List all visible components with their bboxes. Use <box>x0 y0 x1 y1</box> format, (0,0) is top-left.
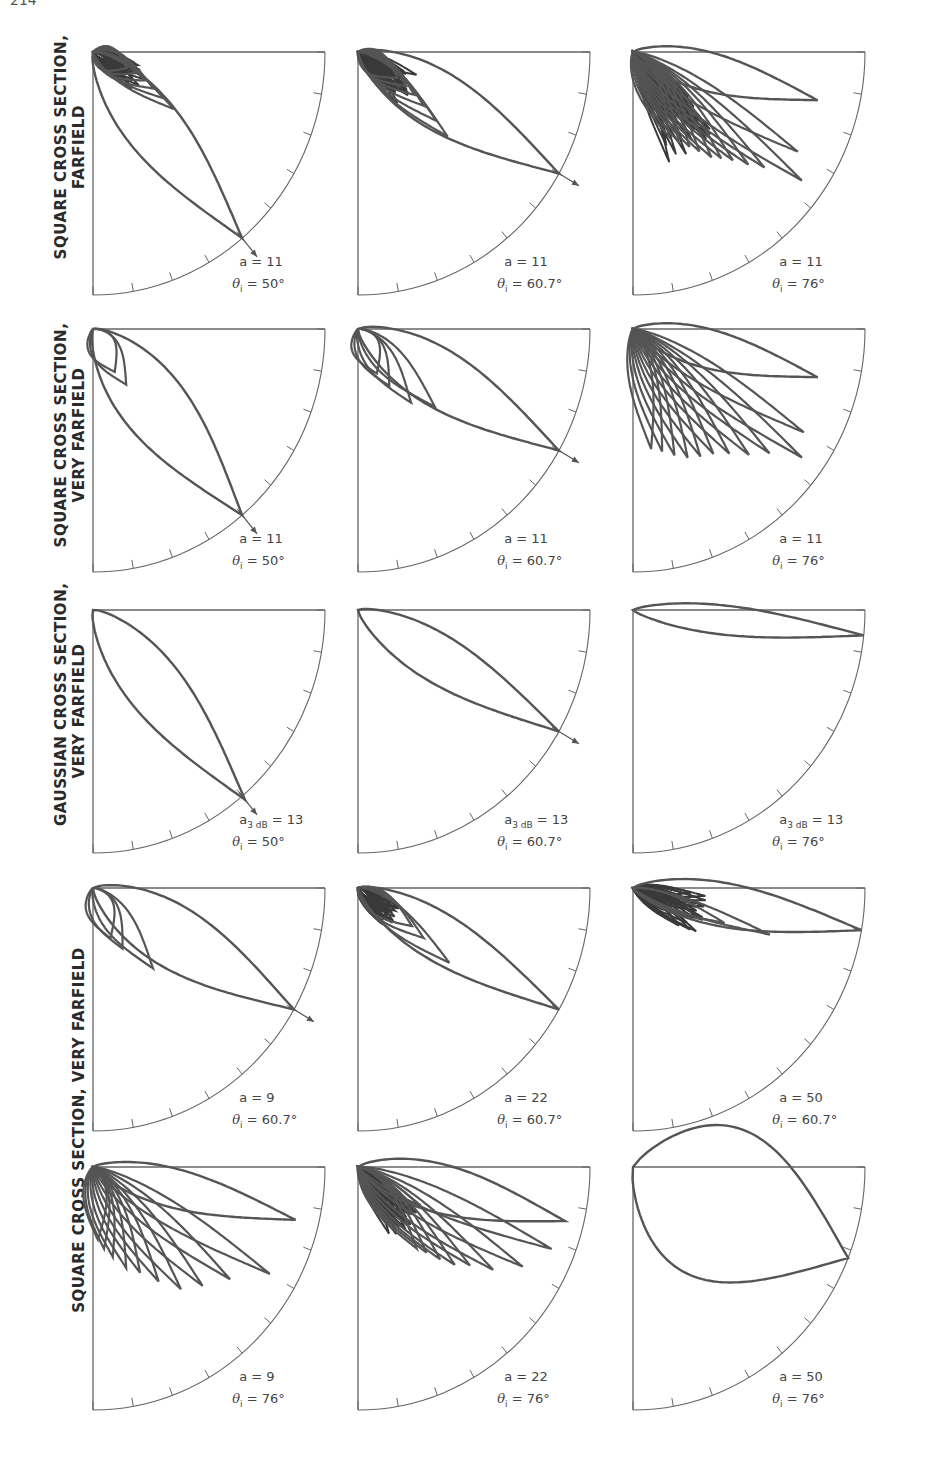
param-label: a = 11 <box>779 531 823 546</box>
incidence-angle-label: θi = 60.7° <box>772 1112 837 1130</box>
polar-plot <box>358 52 610 305</box>
tick-mark <box>303 690 311 693</box>
tick-mark <box>568 968 576 971</box>
incidence-angle-label: θi = 76° <box>772 1391 825 1409</box>
page-number: 214 <box>10 0 37 8</box>
param-value: 13 <box>287 812 304 827</box>
polar-plot <box>358 329 610 582</box>
tick-mark <box>287 727 294 731</box>
row-label-line: VERY FARFIELD <box>70 596 88 826</box>
param-value: 22 <box>531 1090 548 1105</box>
param-name: a3 dB <box>239 812 267 827</box>
scattering-pattern <box>633 879 862 935</box>
tick-mark <box>805 203 811 208</box>
axes <box>633 329 865 572</box>
polar-panel-r4c3: a = 50θi = 60.7° <box>633 888 865 1131</box>
scattering-pattern <box>83 1162 295 1289</box>
tick-mark <box>777 509 782 516</box>
theta-i-value: 76° <box>262 1391 285 1406</box>
polar-plot <box>358 1167 610 1420</box>
tick-mark <box>435 1387 438 1395</box>
polar-plot <box>93 610 345 863</box>
polar-panel-r5c3: a = 50θi = 76° <box>633 1167 865 1410</box>
param-label: a = 11 <box>779 254 823 269</box>
tick-mark <box>470 255 474 262</box>
row-label-line: SQUARE CROSS SECTION, <box>52 32 70 262</box>
param-label: a = 11 <box>239 531 283 546</box>
scattering-pattern <box>358 1159 565 1270</box>
param-label: a = 9 <box>239 1369 274 1384</box>
param-name: a <box>779 1090 787 1105</box>
tick-mark <box>287 169 294 173</box>
tick-mark <box>397 841 398 849</box>
tick-mark <box>313 370 321 371</box>
tick-mark <box>205 813 209 820</box>
tick-mark <box>805 480 811 485</box>
tick-mark <box>745 1370 749 1377</box>
tick-mark <box>132 560 133 568</box>
tick-mark <box>397 1119 398 1127</box>
row-label-r2: SQUARE CROSS SECTION,VERY FARFIELD <box>52 320 88 550</box>
tick-mark <box>313 929 321 930</box>
arrowhead-icon <box>571 738 579 744</box>
incidence-angle-label: θi = 60.7° <box>232 1112 297 1130</box>
tick-mark <box>132 1119 133 1127</box>
param-value: 50 <box>806 1369 823 1384</box>
tick-mark <box>303 968 311 971</box>
incidence-angle-label: θi = 50° <box>232 553 285 571</box>
scattering-pattern <box>358 49 559 174</box>
polar-panel-r3c1: a3 dB = 13θi = 50° <box>93 610 325 853</box>
param-name: a <box>504 531 512 546</box>
tick-mark <box>470 813 474 820</box>
quarter-circle-arc <box>633 329 865 572</box>
scattering-pattern <box>87 329 242 515</box>
tick-mark <box>578 929 586 930</box>
tick-mark <box>805 1318 811 1323</box>
param-name: a <box>504 1369 512 1384</box>
polar-plot <box>633 329 885 582</box>
param-value: 50 <box>806 1090 823 1105</box>
tick-mark <box>287 446 294 450</box>
tick-mark <box>313 651 321 652</box>
tick-mark <box>777 790 782 797</box>
polar-plot <box>633 1167 885 1420</box>
incidence-angle-label: θi = 76° <box>232 1391 285 1409</box>
param-name: a <box>779 1369 787 1384</box>
scattering-pattern <box>86 885 294 1009</box>
row-label-line: GAUSSIAN CROSS SECTION, <box>52 596 70 826</box>
scattering-pattern <box>633 1125 849 1283</box>
incidence-angle-label: θi = 60.7° <box>497 834 562 852</box>
param-name: a3 dB <box>504 812 532 827</box>
tick-mark <box>435 830 438 838</box>
incidence-angle-label: θi = 76° <box>772 553 825 571</box>
tick-mark <box>530 480 536 485</box>
param-name: a3 dB <box>779 812 807 827</box>
theta-i-value: 60.7° <box>527 834 562 849</box>
param-value: 9 <box>266 1369 274 1384</box>
tick-mark <box>530 1318 536 1323</box>
tick-mark <box>672 283 673 291</box>
param-name: a <box>779 531 787 546</box>
polar-plot <box>93 888 345 1141</box>
tick-mark <box>710 830 713 838</box>
param-value: 11 <box>531 531 548 546</box>
tick-mark <box>237 1347 242 1354</box>
tick-mark <box>827 1005 834 1009</box>
tick-mark <box>578 93 586 94</box>
incidence-angle-label: θi = 76° <box>772 834 825 852</box>
tick-mark <box>205 1091 209 1098</box>
polar-plot <box>358 888 610 1141</box>
tick-mark <box>745 255 749 262</box>
tick-mark <box>578 651 586 652</box>
tick-mark <box>287 1284 294 1288</box>
param-label: a = 22 <box>504 1090 548 1105</box>
tick-mark <box>170 1108 173 1116</box>
tick-mark <box>530 1039 536 1044</box>
tick-mark <box>265 761 271 766</box>
polar-panel-r4c2: a = 22θi = 60.7° <box>358 888 590 1131</box>
main-lobe <box>633 603 864 637</box>
tick-mark <box>470 1091 474 1098</box>
theta-i-value: 50° <box>262 553 285 568</box>
tick-mark <box>502 790 507 797</box>
tick-mark <box>710 1108 713 1116</box>
